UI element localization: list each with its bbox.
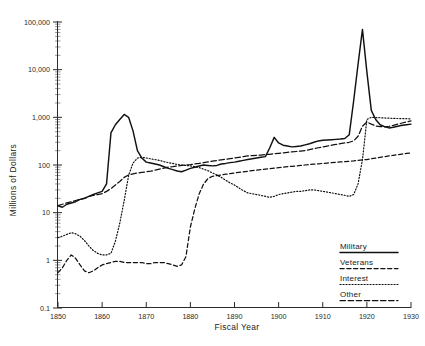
series-line-veterans bbox=[58, 153, 411, 273]
x-tick-label: 1920 bbox=[359, 312, 375, 321]
series-line-military bbox=[58, 29, 411, 207]
y-tick-label: 100 bbox=[38, 161, 50, 170]
x-axis-title: Fiscal Year bbox=[215, 322, 260, 332]
y-axis-title: Millions of Dollars bbox=[8, 144, 18, 216]
chart-figure: 100,00010,0001,0001001010.1 185018601870… bbox=[0, 0, 425, 346]
legend-label-other: Other bbox=[340, 290, 361, 299]
legend-label-military: Military bbox=[340, 242, 367, 251]
x-tick-label-group: 185018601870188018901900191019201930 bbox=[50, 312, 419, 321]
legend-label-interest: Interest bbox=[340, 274, 369, 283]
x-tick-label: 1910 bbox=[315, 312, 331, 321]
x-tick-label: 1850 bbox=[50, 312, 66, 321]
legend-label-veterans: Veterans bbox=[340, 258, 373, 267]
y-tick-label: 1,000 bbox=[32, 113, 50, 122]
series-group bbox=[58, 29, 411, 272]
y-tick-label: 10,000 bbox=[28, 65, 50, 74]
x-tick-label: 1930 bbox=[403, 312, 419, 321]
y-tick-label: 1 bbox=[46, 256, 50, 265]
x-tick-label: 1890 bbox=[227, 312, 243, 321]
y-tick-label: 10 bbox=[42, 208, 50, 217]
y-tick-label: 0.1 bbox=[40, 304, 50, 313]
legend: MilitaryVeteransInterestOther bbox=[340, 242, 398, 301]
x-tick-label: 1880 bbox=[182, 312, 198, 321]
y-tick-label: 100,000 bbox=[24, 18, 50, 27]
x-tick-label: 1870 bbox=[138, 312, 154, 321]
federal-spending-log-line-chart: 100,00010,0001,0001001010.1 185018601870… bbox=[0, 0, 425, 346]
x-tick-label: 1860 bbox=[94, 312, 110, 321]
x-tick-label: 1900 bbox=[271, 312, 287, 321]
y-tick-label-group: 100,00010,0001,0001001010.1 bbox=[24, 18, 50, 313]
